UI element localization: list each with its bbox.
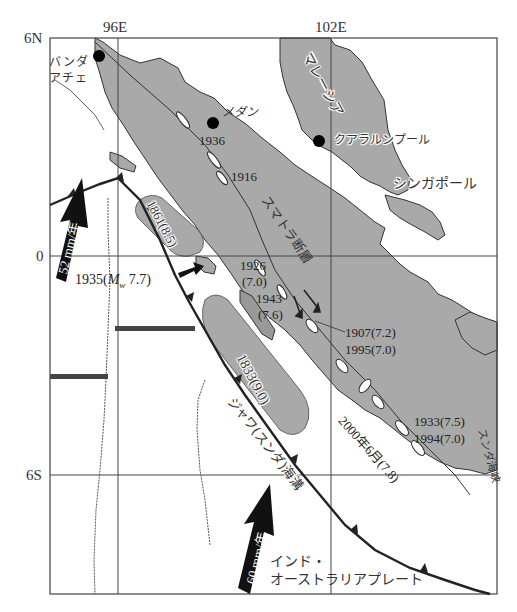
eq-label-1995: 1995(7.0) [345, 343, 396, 356]
ridge-segment-2 [50, 374, 108, 379]
eq-label-1916: 1916 [231, 170, 257, 183]
eq-label-1926-1: 1926 [240, 259, 266, 272]
eq-1935-year: 1935( [75, 272, 108, 287]
eq-label-1936: 1936 [199, 134, 225, 147]
fracture-zone-3 [55, 80, 104, 130]
eq-label-1943-2: (7.6) [258, 308, 283, 321]
lon-label-96e: 96E [103, 20, 127, 35]
city-label-kuala-lumpur: クアラルンプール [334, 134, 430, 146]
lon-label-102e: 102E [315, 20, 347, 35]
region-label-plate-1: インド・ [270, 554, 326, 568]
lat-label-0: 0 [36, 249, 44, 264]
eq-label-1926-2: (7.0) [242, 275, 267, 288]
city-label-banda-aceh-1: バンダ [49, 56, 89, 68]
fracture-zone-2 [197, 380, 210, 545]
sumatra-tectonic-map [0, 0, 517, 612]
city-dot-kuala-lumpur [313, 135, 325, 147]
ridge-segment-1 [115, 326, 195, 331]
eq-label-1935: 1935(Mw 7.7) [75, 273, 151, 290]
eq-1935-m: M [108, 272, 120, 287]
fracture-zone-1 [94, 198, 110, 594]
lat-label-6n: 6N [24, 31, 42, 46]
region-label-plate-2: オーストラリアプレート [270, 572, 423, 586]
city-label-medan: メダン [222, 106, 258, 118]
riau-islands [385, 195, 445, 240]
eq-label-1907: 1907(7.2) [345, 326, 396, 339]
eq-label-1933: 1933(7.5) [414, 415, 465, 428]
city-dot-medan [207, 117, 219, 129]
eq-1935-mag: 7.7) [125, 272, 151, 287]
city-label-singapore: シンガポール [393, 176, 477, 190]
eq-label-1994: 1994(7.0) [414, 432, 465, 445]
simeulue-island [110, 152, 136, 172]
lat-label-6s: 6S [26, 468, 42, 483]
city-dot-banda-aceh [93, 50, 105, 62]
city-label-banda-aceh-2: アチェ [49, 72, 88, 84]
eq-label-1943-1: 1943 [256, 292, 282, 305]
